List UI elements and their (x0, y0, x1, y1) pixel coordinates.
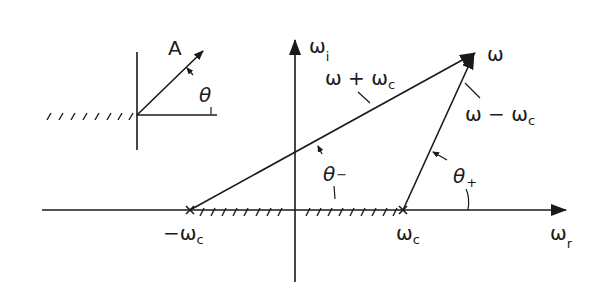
theta-plus-arrow-icon (433, 152, 447, 160)
diff-label-leader (465, 83, 480, 98)
vector-A-label: A (168, 36, 182, 60)
omega-label: ω (487, 42, 504, 66)
inset-hatch (47, 113, 133, 120)
theta-minus-tick (334, 186, 335, 199)
theta-plus-label: θ+ (453, 164, 477, 190)
inset-diagram: A θ (47, 36, 217, 150)
vector-A-arrow (137, 51, 203, 115)
theta-minus-arrow-icon (318, 146, 322, 154)
sum-label-leader (358, 92, 370, 103)
axes: ωi ωr (42, 34, 573, 282)
inset-theta-label: θ (199, 83, 211, 107)
theta-minus-label: θ− (323, 162, 347, 186)
pos-pole-label: ωc (396, 221, 420, 247)
neg-pole-label: −ωc (163, 221, 204, 247)
real-axis-label: ωr (550, 221, 573, 251)
inset-angle-arrow-icon (187, 68, 193, 75)
complex-plane-diagram: A θ ωi ωr −ωc ωc (0, 0, 605, 297)
theta-plus-arc (466, 189, 469, 210)
imag-axis-label: ωi (309, 34, 329, 64)
sum-vector-label: ω + ωc (325, 66, 395, 92)
diff-vector-label: ω − ωc (465, 102, 535, 128)
